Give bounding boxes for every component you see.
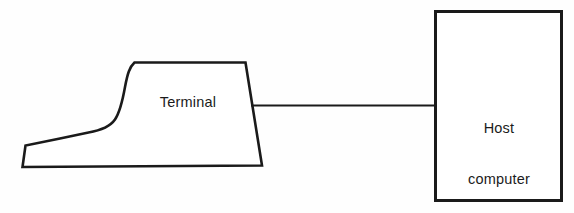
terminal-shape[interactable] [23,63,263,168]
diagram-canvas: Terminal Host computer [0,0,574,213]
terminal-label: Terminal [132,94,244,111]
host-computer-label-line-1: Host [437,120,561,137]
host-computer-label-line-2: computer [437,171,561,188]
host-computer-label: Host computer [437,86,561,213]
